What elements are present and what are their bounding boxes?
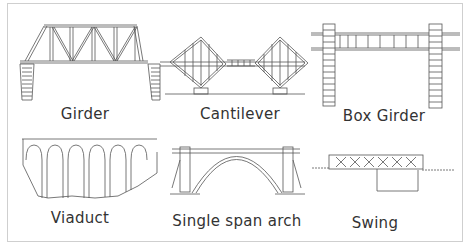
label-viaduct: Viaduct <box>51 209 110 227</box>
viaduct-drawing <box>22 139 157 198</box>
single-span-arch-drawing <box>170 147 305 194</box>
swing-bridge-drawing <box>312 155 455 191</box>
label-single-span-arch: Single span arch <box>172 212 301 230</box>
label-swing: Swing <box>352 214 399 232</box>
label-girder: Girder <box>61 105 109 123</box>
cantilever-bridge-drawing <box>160 37 308 94</box>
box-girder-bridge-drawing <box>311 24 460 108</box>
label-cantilever: Cantilever <box>200 105 280 123</box>
label-box-girder: Box Girder <box>343 107 425 125</box>
girder-bridge-drawing <box>20 25 160 100</box>
